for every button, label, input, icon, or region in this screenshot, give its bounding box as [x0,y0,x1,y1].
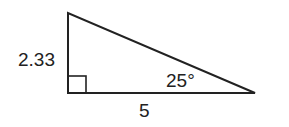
right-triangle-diagram: 2.33 25° 5 [0,0,289,127]
triangle [68,13,255,93]
angle-label: 25° [166,70,195,91]
horizontal-leg-label: 5 [139,100,150,121]
right-angle-marker [68,76,86,93]
vertical-leg-label: 2.33 [18,49,55,70]
